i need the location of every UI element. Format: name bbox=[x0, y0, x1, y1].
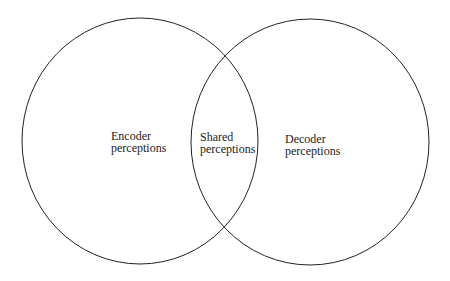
decoder-label-line2: perceptions bbox=[285, 145, 340, 157]
shared-label: Shared perceptions bbox=[200, 131, 255, 155]
encoder-label-line2: perceptions bbox=[111, 142, 166, 154]
shared-label-line2: perceptions bbox=[200, 143, 255, 155]
decoder-label: Decoder perceptions bbox=[285, 133, 340, 157]
encoder-label: Encoder perceptions bbox=[111, 130, 166, 154]
